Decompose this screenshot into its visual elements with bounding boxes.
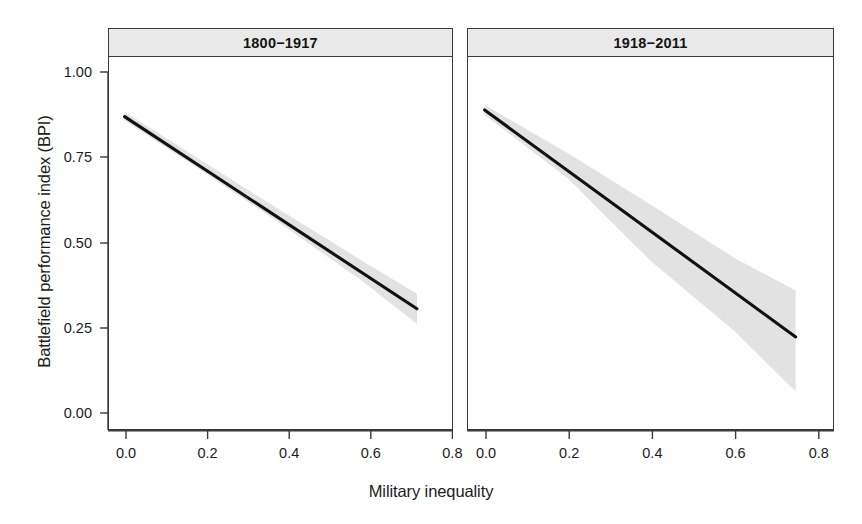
x-tick-label-left-4: 0.8: [442, 445, 462, 461]
x-tick-label-right-3: 0.6: [726, 445, 746, 461]
x-tick-label-left-1: 0.2: [198, 445, 218, 461]
panel-strip-left: 1800−1917: [108, 28, 453, 57]
fit-line-left: [125, 117, 417, 309]
y-tick-label-3: 0.75: [64, 149, 92, 165]
y-tick-label-1: 0.25: [64, 320, 92, 336]
y-tick-label-0: 0.00: [64, 405, 92, 421]
x-tick-label-right-1: 0.2: [559, 445, 579, 461]
confidence-band-right: [485, 105, 796, 392]
y-tick-label-4: 1.00: [64, 64, 92, 80]
x-axis-ticks-left: [108, 430, 453, 444]
x-tick-label-right-0: 0.0: [476, 445, 496, 461]
confidence-band-left: [125, 112, 417, 324]
x-tick-label-left-3: 0.6: [361, 445, 381, 461]
chart-figure: Battlefield performance index (BPI) 0.00…: [0, 0, 862, 524]
panel-plot-left: [108, 57, 453, 430]
panel-left-svg: [109, 57, 452, 428]
x-axis-label: Military inequality: [0, 482, 862, 501]
x-tick-label-right-4: 0.8: [809, 445, 829, 461]
panel-strip-right: 1918−2011: [467, 28, 834, 57]
panel-title-right: 1918−2011: [468, 29, 833, 56]
y-axis-tick-labels: 0.00 0.25 0.50 0.75 1.00: [36, 0, 92, 524]
x-tick-label-left-2: 0.4: [279, 445, 299, 461]
x-tick-label-right-2: 0.4: [642, 445, 662, 461]
x-axis-ticks-right: [467, 430, 834, 444]
fit-line-right: [485, 110, 796, 337]
x-tick-label-left-0: 0.0: [116, 445, 136, 461]
panel-title-left: 1800−1917: [109, 29, 452, 56]
y-tick-label-2: 0.50: [64, 235, 92, 251]
panel-right-svg: [468, 57, 833, 428]
panel-plot-right: [467, 57, 834, 430]
